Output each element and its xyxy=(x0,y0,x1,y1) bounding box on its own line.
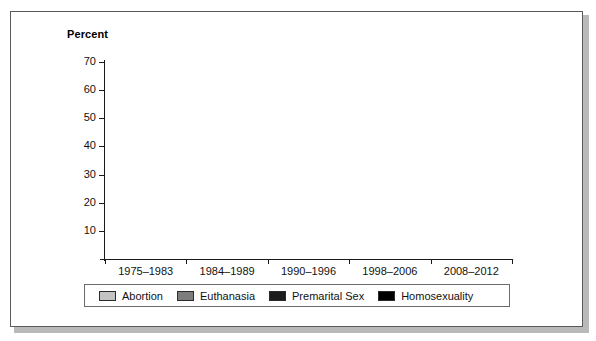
y-tick-label: 50 xyxy=(62,111,96,123)
x-axis-line xyxy=(100,259,513,260)
legend-swatch-icon xyxy=(269,291,286,301)
chart-page: Percent 10203040506070 1975–19831984–198… xyxy=(0,0,596,341)
y-tick-label: 60 xyxy=(62,83,96,95)
x-tick-label-4: 2008–2012 xyxy=(429,265,513,277)
y-tick-label: 30 xyxy=(62,168,96,180)
y-tick-mark xyxy=(99,203,104,204)
y-tick-mark xyxy=(99,175,104,176)
y-tick-label: 10 xyxy=(62,224,96,236)
legend-label: Homosexuality xyxy=(401,290,473,302)
x-tick-label-2: 1990–1996 xyxy=(267,265,351,277)
y-tick-mark xyxy=(99,231,104,232)
legend-item-premarital-sex[interactable]: Premarital Sex xyxy=(269,290,364,302)
y-tick-label: 70 xyxy=(62,55,96,67)
x-tick-mark xyxy=(431,259,432,264)
x-tick-mark xyxy=(512,259,513,264)
x-tick-mark xyxy=(186,259,187,264)
x-tick-label-1: 1984–1989 xyxy=(185,265,269,277)
legend-item-homosexuality[interactable]: Homosexuality xyxy=(378,290,473,302)
chart-legend: AbortionEuthanasiaPremarital SexHomosexu… xyxy=(84,284,510,307)
y-tick-mark xyxy=(99,118,104,119)
legend-label: Premarital Sex xyxy=(292,290,364,302)
x-tick-mark xyxy=(105,259,106,264)
y-tick-mark xyxy=(99,146,104,147)
y-tick-label: 20 xyxy=(62,196,96,208)
y-tick-mark xyxy=(99,90,104,91)
legend-swatch-icon xyxy=(378,291,395,301)
x-tick-label-3: 1998–2006 xyxy=(348,265,432,277)
y-tick-mark xyxy=(99,62,104,63)
legend-label: Euthanasia xyxy=(200,290,255,302)
legend-swatch-icon xyxy=(177,291,194,301)
legend-label: Abortion xyxy=(122,290,163,302)
legend-item-euthanasia[interactable]: Euthanasia xyxy=(177,290,255,302)
legend-swatch-icon xyxy=(99,291,116,301)
x-tick-mark xyxy=(268,259,269,264)
page-title: Percent xyxy=(67,28,108,40)
y-tick-label: 40 xyxy=(62,139,96,151)
x-tick-label-0: 1975–1983 xyxy=(104,265,188,277)
legend-item-abortion[interactable]: Abortion xyxy=(99,290,163,302)
x-tick-mark xyxy=(349,259,350,264)
y-axis-line xyxy=(104,60,105,261)
